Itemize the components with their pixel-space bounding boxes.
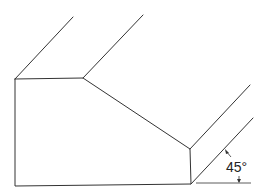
front-face-outline: [15, 78, 191, 186]
arrowhead-lower-icon: [237, 179, 241, 183]
receding-edge-mid: [83, 15, 143, 78]
chamfer-drawing: 45°: [0, 0, 264, 196]
receding-edge-right-top: [190, 85, 250, 149]
receding-edge-left: [15, 17, 73, 79]
arrowhead-upper-icon: [225, 149, 229, 154]
angle-label: 45°: [226, 159, 247, 175]
